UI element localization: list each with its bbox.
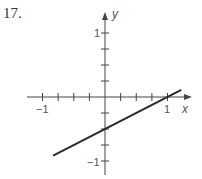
y-axis-arrow-icon bbox=[102, 12, 108, 20]
x-axis-label: x bbox=[181, 102, 189, 116]
x-axis-arrow-icon bbox=[184, 94, 192, 100]
x-tick-label-neg1: −1 bbox=[36, 103, 49, 115]
coordinate-plane: −1 1 1 −1 x y bbox=[0, 0, 202, 179]
y-tick-label-neg1: −1 bbox=[87, 156, 100, 168]
y-tick-label-1: 1 bbox=[94, 27, 100, 39]
x-tick-label-1: 1 bbox=[164, 103, 170, 115]
data-line bbox=[53, 90, 181, 156]
y-axis-label: y bbox=[111, 7, 119, 21]
